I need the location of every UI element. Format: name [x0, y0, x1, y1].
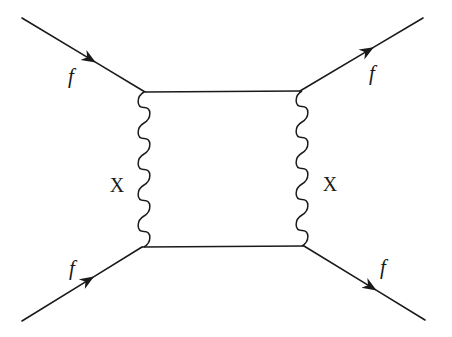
fermion-line-out-bottom [304, 246, 374, 289]
fermion-line-out-top-tail [371, 18, 423, 49]
boson-wavy-line-left-boson [138, 92, 150, 247]
fermion-line-in-bottom-tail [92, 247, 142, 278]
fermion-label-in-top: f [68, 66, 74, 87]
fermion-label-in-bottom: f [69, 258, 75, 279]
boson-label-right: X [323, 174, 337, 194]
fermion-label-out-bottom: f [380, 257, 386, 278]
fermion-line-out-top [300, 49, 371, 91]
boson-wavy-line-right-boson [296, 91, 308, 246]
boson-label-left: X [110, 175, 124, 195]
fermion-line-in-bottom [22, 278, 92, 321]
fermion-label-out-top: f [369, 63, 375, 84]
fermion-line-in-top-tail [93, 61, 145, 92]
feynman-diagram [0, 0, 452, 337]
internal-fermion-top-rung [145, 91, 300, 92]
fermion-line-out-bottom-tail [374, 289, 425, 320]
internal-fermion-bottom-rung [142, 246, 304, 247]
fermion-line-in-top [22, 18, 93, 61]
